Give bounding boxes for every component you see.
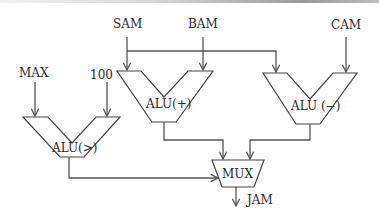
mux-label: MUX bbox=[222, 167, 253, 181]
alu-greater-than: ALU(>) bbox=[23, 117, 120, 157]
alu-plus-label: ALU(+) bbox=[145, 97, 192, 111]
input-label-bam: BAM bbox=[188, 17, 218, 31]
wire-sam-branch bbox=[127, 51, 276, 72]
wire-alu-gt-to-mux-select bbox=[69, 157, 218, 178]
input-label-sam: SAM bbox=[113, 17, 142, 31]
input-label-cam: CAM bbox=[331, 18, 361, 32]
wire-alu-minus-to-mux bbox=[250, 124, 310, 159]
output-label-jam: JAM bbox=[245, 193, 273, 207]
input-label-100: 100 bbox=[90, 68, 113, 82]
datapath-diagram: MAX 100 SAM BAM CAM ALU(>) ALU(+) ALU (−… bbox=[0, 0, 379, 222]
mux: MUX bbox=[212, 160, 264, 187]
alu-minus: ALU (−) bbox=[263, 73, 357, 124]
alu-minus-label: ALU (−) bbox=[290, 99, 340, 113]
wire-alu-plus-to-mux bbox=[164, 122, 223, 159]
input-label-max: MAX bbox=[19, 66, 49, 80]
alu-plus: ALU(+) bbox=[117, 71, 213, 122]
alu-greater-label: ALU(>) bbox=[51, 141, 98, 155]
